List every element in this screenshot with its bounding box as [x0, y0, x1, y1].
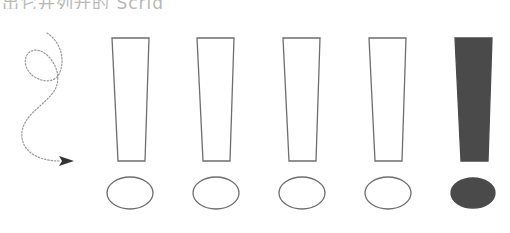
squiggle-path [22, 33, 62, 161]
exclamation-mark-5 [451, 38, 495, 208]
exclamation-dot [107, 177, 153, 209]
exclamation-figure [0, 0, 510, 233]
exclamation-bar [197, 38, 234, 161]
exclamation-dot [193, 177, 239, 209]
exclamation-mark-2 [193, 38, 239, 209]
exclamation-bar [369, 38, 406, 161]
exclamation-bar [112, 38, 149, 161]
exclamation-bar [283, 38, 320, 161]
exclamation-bar [455, 38, 492, 161]
exclamation-mark-4 [365, 38, 411, 209]
exclamation-dot [451, 178, 495, 208]
exclamation-dot [279, 177, 325, 209]
exclamation-dot [365, 177, 411, 209]
squiggle-arrow [22, 33, 74, 166]
arrowhead-icon [59, 156, 74, 166]
exclamation-mark-3 [279, 38, 325, 209]
exclamation-mark-1 [107, 38, 153, 209]
